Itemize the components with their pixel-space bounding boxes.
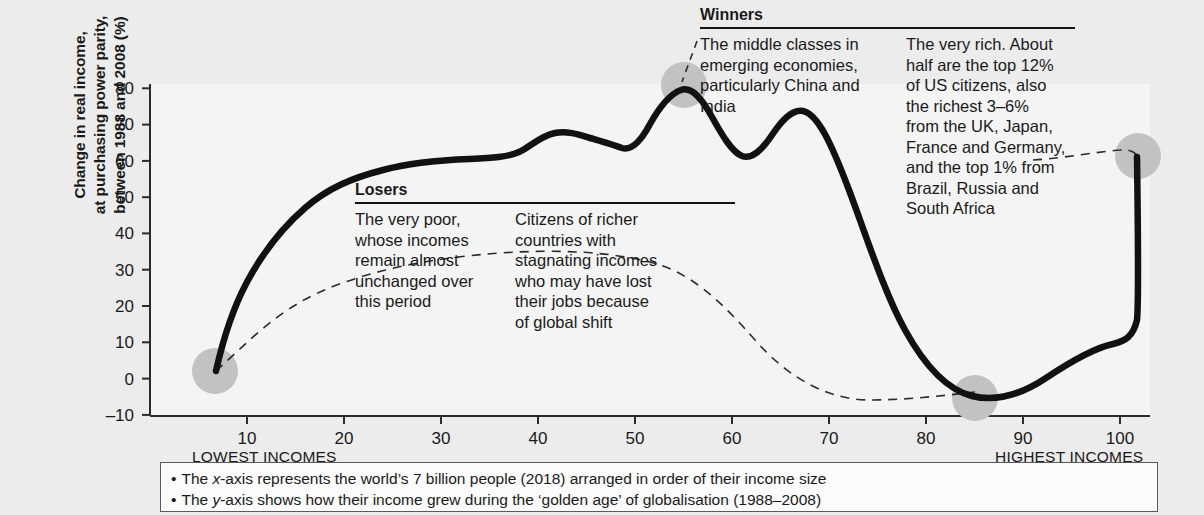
footnote-line-1: •The x-axis represents the world’s 7 bil… <box>171 468 1157 489</box>
y-tick-label-80: 80 <box>92 80 134 97</box>
y-tick-label-minus-10: –10 <box>84 407 134 424</box>
x-tick-label-50: 50 <box>605 430 665 447</box>
annotation-winners-heading: Winners <box>700 6 1176 24</box>
annotation-losers-heading: Losers <box>355 181 755 199</box>
footnote-2-prefix: The <box>181 491 212 508</box>
y-tick-label-0: 0 <box>92 371 134 388</box>
y-tick-label-70: 70 <box>92 116 134 133</box>
chart-root: Change in real income, at purchasing pow… <box>0 0 1204 515</box>
y-tick-label-50: 50 <box>92 189 134 206</box>
annotation-losers-column-1: The very poor, whose incomes remain almo… <box>355 209 515 332</box>
x-tick-label-100: 100 <box>1090 430 1150 447</box>
footnote-1-text: -axis represents the world’s 7 billion p… <box>220 470 826 487</box>
bullet-icon: • <box>171 491 176 508</box>
y-tick-label-10: 10 <box>92 334 134 351</box>
x-tick-label-80: 80 <box>896 430 956 447</box>
y-tick-label-40: 40 <box>92 225 134 242</box>
footnote-line-2: •The y-axis shows how their income grew … <box>171 489 1157 510</box>
annotation-winners-column-2: The very rich. About half are the top 12… <box>906 34 1136 219</box>
annotation-winners: Winners The middle classes in emerging e… <box>700 6 1176 219</box>
x-tick-label-30: 30 <box>411 430 471 447</box>
x-tick-label-40: 40 <box>508 430 568 447</box>
footnote-1-prefix: The <box>181 470 212 487</box>
x-tick-marks <box>247 416 1120 424</box>
y-tick-label-60: 60 <box>92 153 134 170</box>
footnotes-box: •The x-axis represents the world’s 7 bil… <box>160 462 1158 512</box>
annotation-losers-column-2: Citizens of richer countries with stagna… <box>515 209 735 332</box>
x-tick-label-70: 70 <box>799 430 859 447</box>
y-tick-marks <box>142 88 150 415</box>
x-tick-label-10: 10 <box>217 430 277 447</box>
x-tick-label-90: 90 <box>993 430 1053 447</box>
annotation-losers: Losers The very poor, whose incomes rema… <box>355 181 755 332</box>
y-tick-label-30: 30 <box>92 262 134 279</box>
x-tick-label-20: 20 <box>314 430 374 447</box>
x-tick-label-60: 60 <box>702 430 762 447</box>
bullet-icon: • <box>171 470 176 487</box>
y-tick-label-20: 20 <box>92 298 134 315</box>
footnote-2-text: -axis shows how their income grew during… <box>220 491 821 508</box>
y-axis-title-line-1: Change in real income, <box>70 0 90 280</box>
